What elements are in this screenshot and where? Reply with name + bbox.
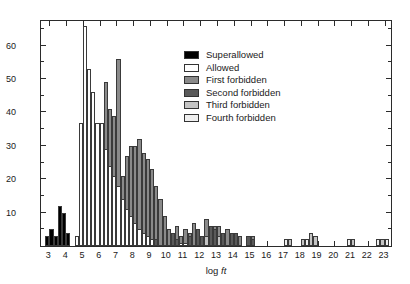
histogram-bar xyxy=(347,239,351,246)
y-tick-label: 50 xyxy=(6,75,16,84)
legend-item: Second forbidden xyxy=(184,87,280,99)
y-axis-tick-minor xyxy=(41,195,44,196)
x-axis-tick xyxy=(150,21,151,26)
legend-item: First forbidden xyxy=(184,74,280,86)
histogram-bar xyxy=(234,233,238,246)
legend: SuperallowedAllowedFirst forbiddenSecond… xyxy=(184,49,280,124)
plot-frame: SuperallowedAllowedFirst forbiddenSecond… xyxy=(40,20,392,247)
y-axis-tick xyxy=(41,212,46,213)
y-tick-label: 10 xyxy=(6,209,16,218)
y-axis-tick xyxy=(41,111,46,112)
y-axis-tick-minor xyxy=(388,128,391,129)
x-axis-title: log ft xyxy=(206,265,227,276)
x-axis-tick xyxy=(116,21,117,26)
legend-item-label: Superallowed xyxy=(206,50,264,60)
legend-swatch-icon xyxy=(184,101,199,109)
histogram-bar xyxy=(385,239,389,246)
x-axis-title-main: log xyxy=(206,265,221,276)
histogram-bar xyxy=(204,236,208,246)
x-axis-tick xyxy=(183,21,184,26)
y-axis-tick xyxy=(386,145,391,146)
x-axis-tick xyxy=(200,21,201,26)
x-axis-tick xyxy=(318,241,319,246)
y-axis-tick xyxy=(41,45,46,46)
histogram-bar xyxy=(305,239,309,246)
y-axis-tick-minor xyxy=(41,28,44,29)
x-axis-tick xyxy=(284,21,285,26)
x-axis-tick xyxy=(234,21,235,26)
y-axis-tick-minor xyxy=(388,61,391,62)
legend-swatch-icon xyxy=(184,89,199,97)
x-axis-tick xyxy=(385,21,386,26)
x-axis-tick xyxy=(217,21,218,26)
x-axis-tick xyxy=(368,241,369,246)
histogram-bar xyxy=(154,239,158,246)
x-axis-tick xyxy=(318,21,319,26)
y-axis-tick-minor xyxy=(388,162,391,163)
histogram-bar xyxy=(66,233,70,246)
y-axis-tick xyxy=(386,45,391,46)
y-axis-tick xyxy=(386,178,391,179)
histogram-bar xyxy=(217,236,221,246)
y-axis-tick xyxy=(41,178,46,179)
histogram-bar xyxy=(288,239,292,246)
y-axis-tick-minor xyxy=(41,61,44,62)
legend-item-label: First forbidden xyxy=(206,75,267,85)
histogram-bar xyxy=(351,239,355,246)
y-tick-label: 60 xyxy=(6,42,16,51)
y-axis-tick xyxy=(386,78,391,79)
x-axis-tick xyxy=(351,21,352,26)
y-tick-label: 20 xyxy=(6,175,16,184)
x-axis-tick xyxy=(66,21,67,26)
histogram-bar xyxy=(221,233,225,246)
histogram-bar xyxy=(313,236,317,246)
chart-figure: Number of cases log ft 102030405060 3456… xyxy=(0,0,410,284)
legend-item-label: Second forbidden xyxy=(206,88,280,98)
legend-item-label: Third forbidden xyxy=(206,100,270,110)
y-axis-tick xyxy=(41,145,46,146)
legend-item: Third forbidden xyxy=(184,99,280,111)
x-axis-tick xyxy=(100,21,101,26)
y-axis-tick-minor xyxy=(41,162,44,163)
histogram-bar xyxy=(183,243,187,246)
x-axis-tick xyxy=(267,241,268,246)
y-tick-label: 40 xyxy=(6,108,16,117)
x-axis-tick xyxy=(267,21,268,26)
y-axis-tick-minor xyxy=(41,95,44,96)
y-tick-label: 30 xyxy=(6,142,16,151)
y-axis-tick-minor xyxy=(41,228,44,229)
legend-item-label: Fourth forbidden xyxy=(206,113,276,123)
legend-item: Allowed xyxy=(184,62,280,74)
x-tick-label: 23 xyxy=(374,251,394,260)
legend-swatch-icon xyxy=(184,114,199,122)
legend-item: Superallowed xyxy=(184,49,280,61)
y-axis-tick-minor xyxy=(388,228,391,229)
x-axis-tick xyxy=(334,241,335,246)
legend-item: Fourth forbidden xyxy=(184,112,280,124)
histogram-bar xyxy=(188,236,192,246)
legend-item-label: Allowed xyxy=(206,63,239,73)
x-axis-tick xyxy=(301,21,302,26)
x-axis-tick xyxy=(251,21,252,26)
y-axis-tick xyxy=(41,78,46,79)
histogram-bar xyxy=(376,239,380,246)
legend-swatch-icon xyxy=(184,76,199,84)
y-axis-tick-minor xyxy=(388,195,391,196)
legend-swatch-icon xyxy=(184,64,199,72)
x-axis-title-italic: ft xyxy=(221,265,226,276)
histogram-bar xyxy=(251,239,255,246)
x-axis-tick xyxy=(334,21,335,26)
legend-swatch-icon xyxy=(184,51,199,59)
histogram-bar xyxy=(238,236,242,246)
y-axis-tick-minor xyxy=(41,128,44,129)
y-axis-tick xyxy=(386,111,391,112)
y-axis-tick xyxy=(386,212,391,213)
x-axis-tick xyxy=(368,21,369,26)
x-axis-tick xyxy=(133,21,134,26)
histogram-bar xyxy=(284,239,288,246)
x-axis-tick xyxy=(49,21,50,26)
x-axis-tick xyxy=(167,21,168,26)
histogram-bar xyxy=(150,239,154,246)
y-axis-tick-minor xyxy=(388,28,391,29)
y-axis-tick-minor xyxy=(388,95,391,96)
